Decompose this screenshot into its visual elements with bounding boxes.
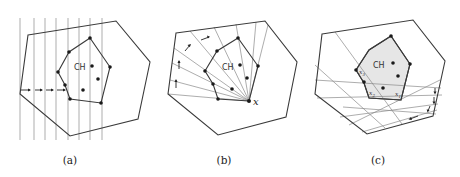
outer-polygon — [20, 21, 150, 136]
caption-c: (c) — [371, 154, 385, 166]
panel-c: CH x3 x2 x1 (c) — [315, 20, 445, 166]
figure-canvas: CH (a) — [0, 0, 460, 177]
panel-b: CH x (b) — [168, 21, 297, 166]
apex-label-x: x — [253, 96, 259, 107]
rotation-arrows — [409, 88, 437, 120]
rays-from-x — [168, 22, 268, 101]
hull-label: CH — [222, 63, 234, 72]
right-arrows — [21, 89, 66, 92]
panel-a: CH (a) — [20, 18, 150, 166]
caption-a: (a) — [63, 154, 77, 166]
caption-b: (b) — [217, 154, 232, 166]
hull-label: CH — [74, 63, 86, 72]
rotation-arrows — [175, 36, 211, 89]
outer-polygon — [168, 21, 297, 135]
hull-label: CH — [373, 61, 385, 70]
